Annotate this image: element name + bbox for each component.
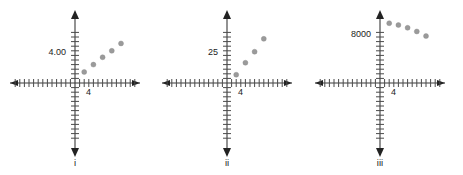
panel-ii-x-label: 4	[238, 88, 243, 97]
panel-i: 4.00 4 i	[0, 0, 155, 175]
panel-i-caption: i	[55, 158, 95, 168]
panel-iii: 8000 4 iii	[305, 0, 460, 175]
panel-ii: 25 4 ii	[152, 0, 307, 175]
panel-i-data-points	[82, 41, 124, 75]
data-point	[261, 36, 266, 41]
panel-ii-caption: ii	[207, 158, 247, 168]
panel-i-plot	[0, 0, 155, 175]
panel-i-x-label: 4	[86, 88, 91, 97]
data-point	[424, 34, 429, 39]
data-point	[234, 72, 239, 77]
data-point	[91, 62, 96, 67]
panel-i-y-label: 4.00	[30, 48, 66, 57]
data-point	[100, 55, 105, 60]
panel-ii-plot	[152, 0, 307, 175]
panel-ii-y-label: 25	[186, 48, 218, 57]
panel-iii-x-label: 4	[391, 88, 396, 97]
three-panel-scatter-figure: 4.00 4 i 25 4 ii	[0, 0, 463, 175]
data-point	[405, 25, 410, 30]
data-point	[387, 21, 392, 26]
data-point	[82, 69, 87, 74]
data-point	[396, 23, 401, 28]
data-point	[252, 49, 257, 54]
data-point	[243, 60, 248, 65]
data-point	[119, 41, 124, 46]
panel-iii-caption: iii	[360, 158, 400, 168]
panel-iii-data-points	[387, 21, 429, 39]
panel-ii-data-points	[234, 36, 267, 77]
data-point	[109, 48, 114, 53]
panel-iii-y-label: 8000	[327, 30, 371, 39]
panel-iii-plot	[305, 0, 460, 175]
data-point	[414, 29, 419, 34]
